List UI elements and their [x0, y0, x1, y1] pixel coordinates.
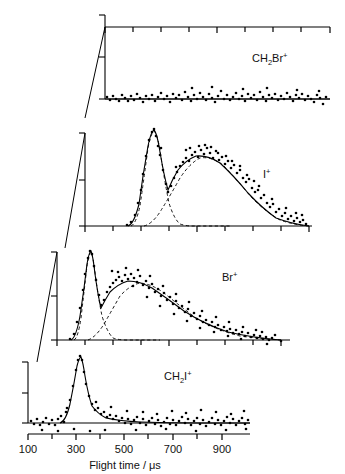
xaxis-title: Flight time / μs [89, 459, 161, 471]
panel-ch2i: CH2I+ [22, 355, 250, 440]
xaxis-iplus [85, 226, 312, 232]
xtick-label: 900 [213, 443, 231, 455]
fit-iplus-fast [131, 131, 230, 226]
panel-connector-brplus [37, 252, 57, 362]
figure-container: CH2Br+ [0, 0, 345, 474]
xaxis-ticklabels: 100 300 500 700 900 [19, 443, 231, 455]
yaxis-iplus [79, 133, 85, 226]
scatter-iplus [126, 128, 308, 227]
tof-spectra-figure: CH2Br+ [0, 0, 345, 474]
xtick-label: 500 [115, 443, 133, 455]
xtick-label: 300 [67, 443, 85, 455]
yaxis-ch2i [22, 362, 28, 423]
xaxis-ch2i [28, 434, 250, 440]
xaxis-brplus [57, 340, 290, 346]
scatter-ch2br [106, 86, 328, 106]
panel-label-ch2br: CH2Br+ [252, 51, 288, 67]
xtick-label: 100 [19, 443, 37, 455]
panel-ch2br: CH2Br+ [85, 15, 330, 118]
xtick-label: 700 [164, 443, 182, 455]
panel-label-ch2i: CH2I+ [164, 369, 192, 385]
xaxis-ch2br [105, 27, 330, 33]
panel-iplus: I+ [65, 128, 312, 248]
panel-connector-ch2br [85, 27, 105, 118]
yaxis-ch2br [99, 15, 105, 99]
yaxis-brplus [51, 252, 57, 340]
fit-ch2i [60, 357, 250, 423]
panel-connector-iplus [65, 133, 85, 248]
fit-iplus-total [128, 130, 309, 226]
scatter-brplus [69, 250, 283, 346]
panel-label-iplus: I+ [263, 167, 271, 180]
panel-label-brplus: Br+ [222, 270, 238, 283]
panel-brplus: Br+ [37, 250, 290, 362]
